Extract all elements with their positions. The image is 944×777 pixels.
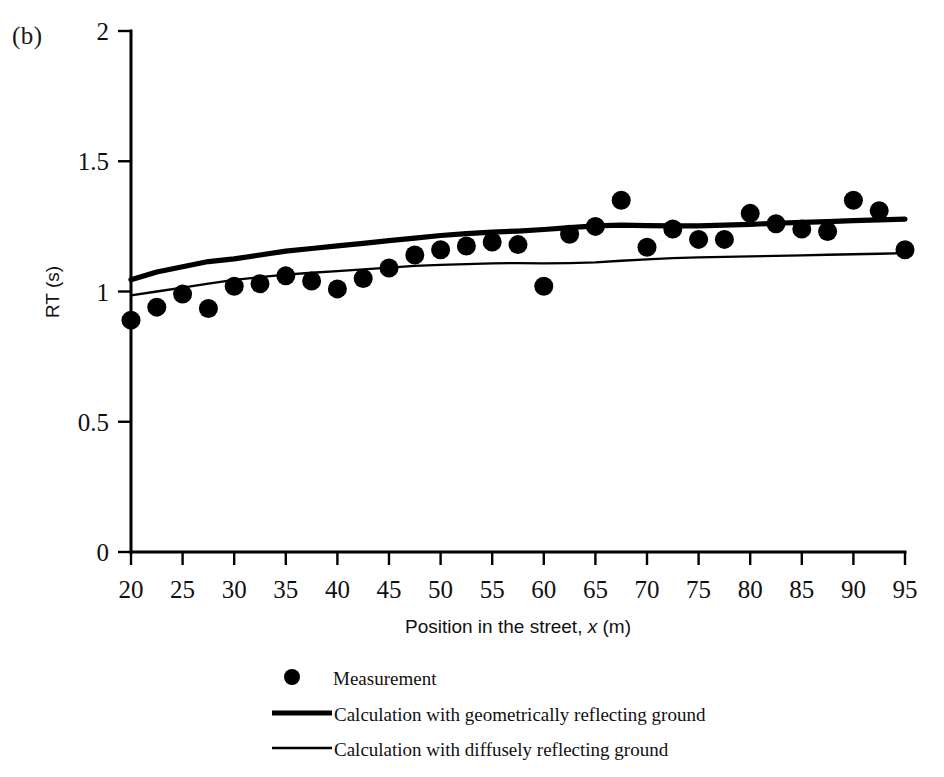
y-axis-title: RT (s) [42, 266, 63, 318]
x-tick-label: 30 [222, 576, 247, 603]
legend-marker-measurement [284, 669, 300, 685]
data-point-measurement [276, 266, 295, 285]
x-tick-label: 25 [170, 576, 195, 603]
data-point-measurement [509, 235, 528, 254]
data-point-measurement [431, 240, 450, 259]
chart-legend: Measurement Calculation with geometrical… [272, 668, 706, 760]
data-point-measurement [638, 238, 657, 257]
data-point-measurement [534, 277, 553, 296]
x-tick-label: 35 [273, 576, 298, 603]
figure-panel-b: (b) 00.511.52 20253035404550556065707580… [0, 0, 944, 777]
data-point-measurement [689, 230, 708, 249]
x-tick-label: 75 [686, 576, 711, 603]
y-axis-tick-labels: 00.511.52 [78, 18, 109, 566]
x-tick-label: 55 [480, 576, 505, 603]
x-tick-label: 85 [789, 576, 814, 603]
data-point-measurement [147, 298, 166, 317]
legend-label-diffusely-reflecting: Calculation with diffusely reflecting gr… [334, 739, 669, 760]
data-point-measurement [122, 311, 141, 330]
data-point-measurement [302, 272, 321, 291]
data-point-measurement [173, 285, 192, 304]
y-tick-label: 2 [97, 18, 110, 45]
data-point-measurement [612, 191, 631, 210]
x-tick-label: 80 [738, 576, 763, 603]
x-tick-label: 45 [377, 576, 402, 603]
data-point-measurement [586, 217, 605, 236]
chart-canvas: 00.511.52 202530354045505560657075808590… [0, 0, 944, 777]
x-axis-title: Position in the street, x (m) [405, 616, 631, 637]
x-axis-tick-labels: 20253035404550556065707580859095 [119, 576, 918, 603]
data-point-measurement [896, 240, 915, 259]
data-point-measurement [380, 259, 399, 278]
data-point-measurement [225, 277, 244, 296]
data-point-measurement [560, 225, 579, 244]
x-tick-label: 65 [583, 576, 608, 603]
x-tick-label: 50 [428, 576, 453, 603]
x-axis-ticks [131, 552, 905, 565]
y-tick-label: 0.5 [78, 409, 109, 436]
x-tick-label: 60 [531, 576, 556, 603]
data-point-measurement [663, 219, 682, 238]
x-tick-label: 40 [325, 576, 350, 603]
data-point-measurement [457, 236, 476, 255]
legend-label-geometrically-reflecting: Calculation with geometrically reflectin… [334, 704, 706, 725]
data-point-measurement [715, 230, 734, 249]
data-point-measurement [870, 201, 889, 220]
data-point-measurement [741, 204, 760, 223]
data-point-measurement [251, 274, 270, 293]
data-point-measurement [767, 214, 786, 233]
data-point-measurement [483, 233, 502, 252]
y-tick-label: 1.5 [78, 148, 109, 175]
data-point-measurement [328, 279, 347, 298]
y-axis-ticks [118, 31, 131, 552]
data-point-measurement [844, 191, 863, 210]
x-tick-label: 20 [119, 576, 144, 603]
data-point-measurement [405, 246, 424, 265]
data-point-measurement [354, 269, 373, 288]
data-point-measurement [792, 219, 811, 238]
legend-label-measurement: Measurement [333, 668, 437, 689]
x-tick-label: 90 [841, 576, 866, 603]
data-point-measurement [818, 222, 837, 241]
y-tick-label: 1 [97, 279, 110, 306]
data-point-measurement [199, 299, 218, 318]
x-tick-label: 95 [893, 576, 918, 603]
y-tick-label: 0 [97, 539, 110, 566]
x-tick-label: 70 [635, 576, 660, 603]
